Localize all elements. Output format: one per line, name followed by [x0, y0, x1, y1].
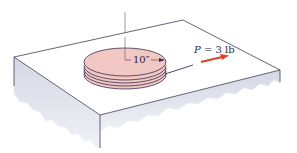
radius-label: 10″ [133, 54, 150, 65]
friction-disk-diagram: 10″ P = 3 lb [0, 0, 297, 153]
force-label: P = 3 lb [193, 44, 235, 55]
